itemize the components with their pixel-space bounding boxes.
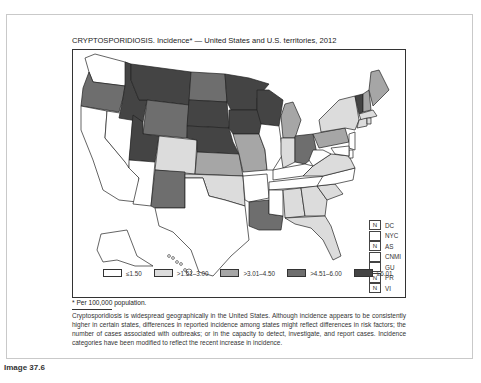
territory-swatch: N — [369, 283, 381, 293]
state-NJ — [349, 132, 355, 150]
state-WY — [143, 100, 189, 138]
state-HI-island — [176, 261, 179, 264]
map-panel: NDCNYCNASCNMIGUNPRNVI ≤1.50>1.51–3.00>3.… — [72, 49, 406, 298]
legend-swatch — [287, 269, 306, 277]
legend-swatch — [103, 269, 122, 277]
territory-as: NAS — [369, 241, 401, 252]
state-CO — [155, 136, 197, 174]
legend-item: >3.01–4.50 — [220, 269, 275, 277]
chart-title: CRYPTOSPORIDIOSIS. Incidence* — United S… — [72, 36, 336, 45]
state-PA — [313, 128, 349, 148]
territory-swatch: N — [369, 241, 381, 251]
territory-nyc: NYC — [369, 231, 401, 242]
state-RI — [367, 118, 371, 124]
description-text: Cryptosporidiosis is widespread geograph… — [72, 311, 406, 347]
state-MI — [281, 102, 301, 138]
us-choropleth-map — [73, 50, 405, 297]
state-WI — [257, 90, 283, 126]
state-AK — [97, 230, 153, 266]
state-NM — [151, 170, 185, 208]
territory-swatch: N — [369, 220, 381, 230]
legend-item: >4.51–6.00 — [287, 269, 342, 277]
map-legend: ≤1.50>1.51–3.00>3.01–4.50>4.51–6.00≥6.01 — [103, 269, 393, 277]
territory-label: VI — [385, 285, 391, 292]
territory-label: NYC — [385, 232, 398, 239]
state-ND — [189, 72, 227, 102]
legend-label: >4.51–6.00 — [310, 270, 342, 277]
image-caption: Image 37.6 — [4, 363, 45, 372]
legend-label: ≤1.50 — [126, 270, 142, 277]
state-DE — [349, 150, 353, 158]
legend-item: ≥6.01 — [354, 269, 393, 277]
territories-legend: NDCNYCNASCNMIGUNPRNVI — [369, 220, 401, 294]
legend-label: >3.01–4.50 — [243, 270, 275, 277]
state-KS — [195, 152, 243, 176]
territory-swatch — [369, 231, 381, 241]
state-FL — [285, 216, 341, 260]
state-NY — [319, 96, 359, 132]
state-AR — [243, 174, 269, 202]
footnote: * Per 100,000 population. — [72, 299, 146, 306]
state-SD — [187, 100, 229, 128]
territory-cnmi: CNMI — [369, 252, 401, 263]
state-IN — [281, 138, 295, 168]
legend-swatch — [154, 269, 173, 277]
territory-label: DC — [385, 222, 394, 229]
legend-label: >1.51–3.00 — [177, 270, 209, 277]
territory-dc: NDC — [369, 220, 401, 231]
territory-label: CNMI — [385, 253, 401, 260]
territory-swatch — [369, 252, 381, 262]
territory-vi: NVI — [369, 283, 401, 294]
legend-swatch — [354, 269, 373, 277]
state-ME — [369, 70, 389, 106]
state-MS — [269, 190, 283, 216]
legend-label: ≥6.01 — [377, 270, 393, 277]
legend-item: >1.51–3.00 — [154, 269, 209, 277]
state-HI-island — [172, 257, 175, 260]
state-HI-island — [180, 263, 183, 266]
territory-label: AS — [385, 243, 393, 250]
state-MT — [131, 64, 191, 105]
divider — [72, 309, 112, 310]
legend-swatch — [220, 269, 239, 277]
state-HI-island — [168, 255, 171, 258]
legend-item: ≤1.50 — [103, 269, 142, 277]
